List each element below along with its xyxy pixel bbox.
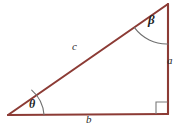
side-label-c: c xyxy=(72,41,77,52)
angle-label-beta: β xyxy=(148,13,155,26)
triangle-diagram: c a b θ β xyxy=(0,0,183,128)
angle-label-theta: θ xyxy=(29,98,35,110)
triangle-graphic xyxy=(0,0,183,128)
right-angle-marker xyxy=(156,102,168,114)
side-label-a: a xyxy=(167,55,173,66)
angle-arc-beta xyxy=(135,28,169,44)
side-label-b: b xyxy=(86,114,92,125)
